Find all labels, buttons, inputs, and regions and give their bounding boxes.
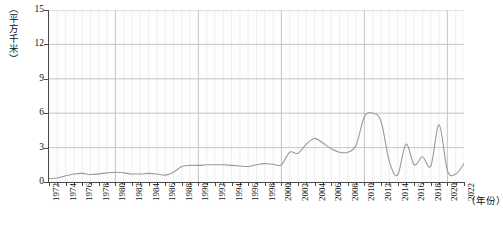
x-tick-label: 1978 <box>102 183 111 223</box>
x-tick-label: 2018 <box>434 183 443 223</box>
x-axis-unit-label: （年份） <box>466 196 503 206</box>
minor-vertical-gridlines <box>49 10 464 182</box>
x-tick-label: 2010 <box>367 183 376 223</box>
x-tick-label: 1976 <box>85 183 94 223</box>
y-axis-tick-labels: 03691215 <box>22 0 44 229</box>
x-tick-label: 2006 <box>334 183 343 223</box>
x-tick-label: 1992 <box>218 183 227 223</box>
x-tick-label: 2016 <box>417 183 426 223</box>
x-tick-label: 2000 <box>284 183 293 223</box>
y-tick-label: 12 <box>24 39 44 49</box>
y-tick-label: 3 <box>24 143 44 153</box>
x-tick-label: 1980 <box>118 183 127 223</box>
x-tick-label: 1998 <box>268 183 277 223</box>
x-axis-tick-labels: 1972197419761978198019821984198619881990… <box>48 183 463 227</box>
x-tick-label: 2004 <box>318 183 327 223</box>
x-tick-label: 1996 <box>251 183 260 223</box>
x-tick-label: 1972 <box>52 183 61 223</box>
y-axis-unit-label: （平方千米） <box>2 4 18 64</box>
x-tick-label: 1990 <box>201 183 210 223</box>
plot-inner <box>49 10 464 182</box>
chart-container: （平方千米） 03691215 197219741976197819801982… <box>0 0 503 229</box>
x-tick-label: 2002 <box>301 183 310 223</box>
y-tick-label: 15 <box>24 5 44 15</box>
y-tick-label: 6 <box>24 108 44 118</box>
x-tick-label: 1974 <box>69 183 78 223</box>
y-tick-label: 0 <box>24 177 44 187</box>
x-tick-label: 1984 <box>152 183 161 223</box>
x-tick-label: 1986 <box>168 183 177 223</box>
x-tick-label: 2014 <box>401 183 410 223</box>
chart-svg <box>49 10 464 182</box>
x-tick-label: 1982 <box>135 183 144 223</box>
x-tick-label: 1988 <box>185 183 194 223</box>
x-tick-label: 2020 <box>450 183 459 223</box>
plot-area <box>48 10 464 183</box>
x-tick-mark <box>464 182 465 186</box>
x-tick-label: 2012 <box>384 183 393 223</box>
y-tick-label: 9 <box>24 74 44 84</box>
x-tick-label: 2008 <box>351 183 360 223</box>
x-tick-label: 1994 <box>235 183 244 223</box>
